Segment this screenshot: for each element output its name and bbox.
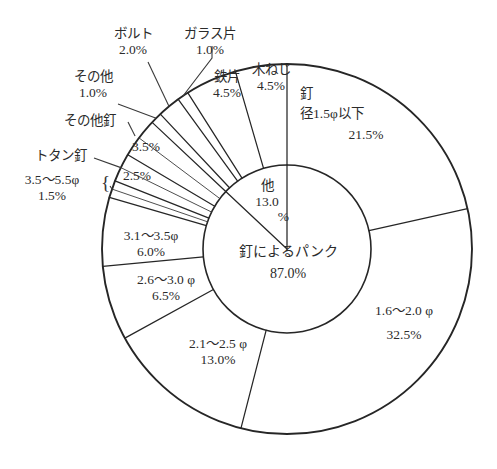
label-kugi-range: 径1.5φ以下 bbox=[300, 106, 432, 122]
label-totan-range-text: 3.5〜5.5φ bbox=[0, 172, 104, 188]
label-other-name: その他 bbox=[56, 69, 130, 85]
label-range-26-30: 2.6〜3.0 φ 6.5% bbox=[114, 272, 218, 303]
label-other-pct: 1.0% bbox=[56, 85, 130, 101]
label-totan-pct: 1.5% bbox=[0, 188, 104, 204]
label-kineji-pct: 4.5% bbox=[240, 78, 302, 94]
label-range-21-25-text: 2.1〜2.5 φ bbox=[166, 336, 270, 352]
label-range-16-20: 1.6〜2.0 φ 32.5% bbox=[352, 303, 456, 342]
label-totan-nail-name: トタン釘 bbox=[18, 148, 104, 164]
brace-icon: { bbox=[101, 172, 110, 194]
label-hoka-pct-b: % bbox=[245, 209, 289, 225]
label-glass-pct: 1.0% bbox=[172, 42, 248, 58]
label-range-16-20-pct: 32.5% bbox=[352, 327, 456, 343]
label-hoka-pct-a: 13.0 bbox=[245, 194, 289, 210]
label-totan-range: 3.5〜5.5φ 1.5% bbox=[0, 172, 104, 203]
label-bolt: ボルト 2.0% bbox=[96, 26, 170, 57]
label-range-31-35: 3.1〜3.5φ 6.0% bbox=[102, 228, 200, 259]
label-other-nail-name: その他釘 bbox=[48, 113, 132, 129]
label-kineji-name: 木ねじ bbox=[240, 62, 302, 78]
label-range-31-35-pct: 6.0% bbox=[102, 244, 200, 260]
pie-chart-figure: ボルト 2.0% ガラス片 1.0% その他 1.0% その他釘 トタン釘 3.… bbox=[0, 0, 497, 469]
label-range-26-30-pct: 6.5% bbox=[114, 288, 218, 304]
label-range-26-30-text: 2.6〜3.0 φ bbox=[114, 272, 218, 288]
label-other: その他 1.0% bbox=[56, 69, 130, 100]
label-bolt-name: ボルト bbox=[96, 26, 170, 42]
label-kugi: 釘 径1.5φ以下 21.5% bbox=[300, 86, 432, 143]
label-kugi-pct: 21.5% bbox=[300, 127, 432, 143]
label-range-21-25-pct: 13.0% bbox=[166, 352, 270, 368]
label-range-21-25: 2.1〜2.5 φ 13.0% bbox=[166, 336, 270, 367]
label-kineji: 木ねじ 4.5% bbox=[240, 62, 302, 93]
label-totan-nail: トタン釘 bbox=[18, 148, 104, 164]
label-center-name: 釘によるパンク bbox=[206, 244, 370, 260]
label-center: 釘によるパンク 87.0% bbox=[206, 244, 370, 282]
label-totan-inner-pct: 2.5% bbox=[113, 168, 161, 184]
label-glass-name: ガラス片 bbox=[172, 26, 248, 42]
label-other-nail-pct: 3.5% bbox=[122, 139, 170, 155]
label-other-nail: その他釘 bbox=[48, 113, 132, 129]
label-kugi-name: 釘 bbox=[300, 86, 432, 102]
label-hoka: 他 13.0 % bbox=[245, 178, 289, 225]
label-glass: ガラス片 1.0% bbox=[172, 26, 248, 57]
label-hoka-name: 他 bbox=[245, 178, 289, 194]
label-center-pct: 87.0% bbox=[206, 266, 370, 282]
label-range-16-20-text: 1.6〜2.0 φ bbox=[352, 303, 456, 319]
label-bolt-pct: 2.0% bbox=[96, 42, 170, 58]
label-range-31-35-text: 3.1〜3.5φ bbox=[102, 228, 200, 244]
